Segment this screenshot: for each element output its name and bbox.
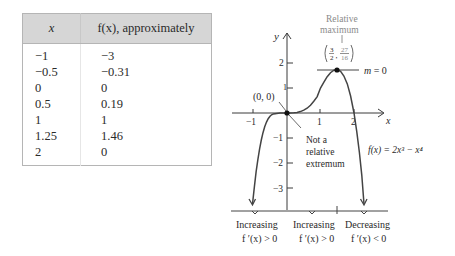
x-axis <box>232 109 384 117</box>
origin-label: (0, 0) <box>253 91 275 103</box>
interval-1-sign: f ′(x) > 0 <box>242 233 277 245</box>
y-tick: 1 <box>283 83 287 92</box>
max-coordinates: 3 2 , 27 16 <box>325 45 353 62</box>
slope-label: m = 0 <box>364 65 387 76</box>
not-extremum-label-2: relative <box>306 147 334 157</box>
relative-max-label: Relative <box>326 14 358 24</box>
svg-text:2: 2 <box>330 54 334 62</box>
svg-text:27: 27 <box>341 46 349 54</box>
x-tick: −1 <box>246 117 256 127</box>
relative-max-label-2: maximum <box>320 25 359 35</box>
max-point <box>334 67 339 72</box>
interval-2-sign: f ′(x) > 0 <box>299 233 334 245</box>
not-extremum-label: Not a <box>306 135 328 145</box>
origin-pointer <box>279 102 286 111</box>
interval-3-sign: f ′(x) < 0 <box>351 233 386 245</box>
y-axis <box>283 33 293 210</box>
x-axis-label: x <box>385 115 391 126</box>
interval-1-label: Increasing <box>236 219 278 230</box>
y-tick: 2 <box>279 58 284 68</box>
y-tick: −3 <box>273 184 283 194</box>
not-extremum-label-3: extremum <box>306 159 345 169</box>
y-axis-label: y <box>273 30 279 42</box>
svg-text:16: 16 <box>341 54 349 62</box>
interval-2-label: Increasing <box>293 219 335 230</box>
svg-text:3: 3 <box>330 46 334 54</box>
not-extremum-pointer <box>289 115 301 128</box>
svg-text:,: , <box>336 51 338 60</box>
x-tick: 1 <box>317 117 322 127</box>
y-tick: −2 <box>273 158 283 168</box>
function-label: f(x) = 2x³ − x⁴ <box>368 145 424 156</box>
origin-point <box>284 110 289 115</box>
interval-line <box>231 206 388 214</box>
function-graph: x y −1 1 2 2 1 −1 −2 −3 m = 0 Relative m… <box>0 0 455 256</box>
interval-3-label: Decreasing <box>345 219 390 230</box>
y-tick: −1 <box>273 133 283 143</box>
